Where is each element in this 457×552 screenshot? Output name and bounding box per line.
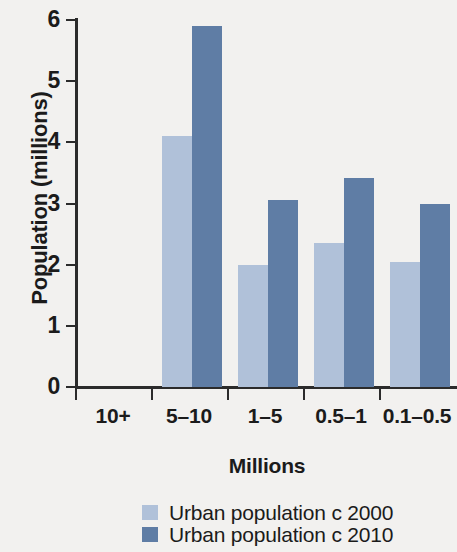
bar-chart-figure: Population (millions) 6543210 10+5–101–5…: [0, 0, 457, 552]
y-axis-tick-mark: [66, 80, 76, 82]
y-axis-tick-mark: [66, 203, 76, 205]
x-axis-tick-mark: [227, 389, 229, 400]
bar-series-2010: [268, 200, 298, 387]
y-axis-tick-label: 0: [20, 375, 60, 398]
legend-swatch-icon: [142, 527, 158, 542]
x-axis-tick-mark: [151, 389, 153, 400]
x-axis-category-label: 0.1–0.5: [362, 404, 457, 427]
legend-label: Urban population c 2010: [169, 524, 393, 545]
legend-item: Urban population c 2000: [142, 502, 457, 523]
y-axis-tick-label: 6: [20, 8, 60, 31]
y-axis-tick-label: 2: [20, 253, 60, 276]
bar-series-2000: [314, 243, 344, 387]
x-axis-tick-mark: [379, 389, 381, 400]
x-axis-tick-mark: [75, 389, 77, 400]
plot-area: [77, 20, 457, 387]
y-axis-tick-mark: [66, 141, 76, 143]
bar-series-2000: [390, 262, 420, 387]
legend-swatch-icon: [142, 505, 158, 520]
bar-series-2000: [238, 265, 268, 387]
chart-legend: Urban population c 2000Urban population …: [142, 502, 457, 546]
y-axis-tick-mark: [66, 19, 76, 21]
y-axis-tick-label: 4: [20, 130, 60, 153]
y-axis-tick-label: 1: [20, 314, 60, 337]
y-axis-tick-mark: [66, 325, 76, 327]
bar-series-2000: [162, 136, 192, 387]
x-axis-title: Millions: [77, 454, 457, 478]
y-axis-tick-label: 3: [20, 192, 60, 215]
bar-series-2010: [344, 178, 374, 387]
bar-series-2010: [192, 26, 222, 387]
x-axis-tick-mark: [303, 389, 305, 400]
bar-series-2010: [420, 204, 450, 388]
y-axis-tick-mark: [66, 386, 76, 388]
y-axis-tick-mark: [66, 264, 76, 266]
legend-label: Urban population c 2000: [169, 502, 393, 523]
legend-item: Urban population c 2010: [142, 524, 457, 545]
y-axis-tick-label: 5: [20, 69, 60, 92]
